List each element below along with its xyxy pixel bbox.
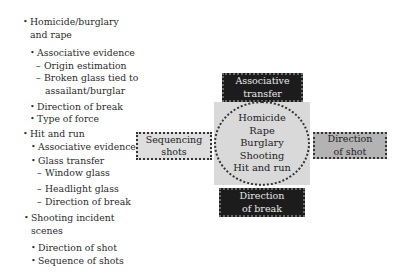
list-item-text: Headlight glass [45, 183, 119, 194]
associative-transfer-box: Associativetransfer [222, 73, 303, 102]
direction-of-shot-box: Directionof shot [313, 132, 387, 159]
list-item-text: scenes [31, 225, 63, 236]
list-item-associative-evidence-2: Associative evidence [38, 141, 136, 154]
list-item-text: Direction of break [45, 196, 131, 207]
list-item-origin-estimation: Origin estimation [44, 60, 127, 73]
crime-types-circle: Homicide Rape Burglary Shooting Hit and … [214, 101, 310, 186]
list-item-homicide: Homicide/burglaryand rape [30, 16, 119, 41]
crime-type-text: Shooting [240, 150, 284, 161]
box-text: Sequencing [146, 134, 203, 145]
list-item-text: assailant/burglar [44, 85, 125, 96]
box-text: of shot [334, 146, 367, 157]
list-item-sequence-of-shots: Sequence of shots [38, 255, 124, 268]
crime-type-text: Hit and run [233, 162, 291, 173]
list-item-text: Type of force [37, 113, 99, 124]
list-item-text: Associative evidence [37, 47, 135, 58]
list-item-text: Shooting incident [31, 212, 114, 223]
list-item-glass-transfer: Glass transfer [38, 155, 104, 168]
crime-type-text: Burglary [240, 137, 284, 148]
list-item-window-glass: Window glass [45, 167, 110, 180]
list-item-text: Sequence of shots [38, 255, 124, 266]
list-item-hit-and-run: Hit and run [30, 128, 85, 141]
list-item-shooting-incident: Shooting incidentscenes [31, 212, 114, 237]
list-item-type-of-force: Type of force [37, 113, 99, 126]
box-text: Associative [235, 75, 289, 86]
list-item-text: Associative evidence [38, 141, 136, 152]
crime-type-text: Rape [249, 125, 275, 136]
list-item-text: Broken glass tied to [44, 72, 138, 83]
list-item-direction-of-shot: Direction of shot [38, 242, 117, 255]
list-item-direction-of-break: Direction of break [37, 101, 123, 114]
list-item-text: and rape [30, 29, 72, 40]
list-item-text: Direction of shot [38, 242, 117, 253]
sequencing-shots-box: Sequencingshots [136, 132, 212, 160]
list-item-text: Homicide/burglary [30, 16, 119, 27]
box-text: Direction [240, 190, 285, 201]
list-item-text: Glass transfer [38, 155, 104, 166]
direction-of-break-box: Directionof break [219, 188, 305, 217]
box-text: transfer [243, 88, 282, 99]
crime-type-text: Homicide [238, 112, 286, 123]
list-item-broken-glass: Broken glass tied toassailant/burglar [44, 72, 138, 97]
list-item-associative-evidence: Associative evidence [37, 47, 135, 60]
list-item-text: Hit and run [30, 128, 85, 139]
list-item-text: Window glass [45, 167, 110, 178]
list-item-text: Direction of break [37, 101, 123, 112]
box-text: shots [161, 146, 186, 157]
box-text: Direction [328, 133, 373, 144]
list-item-text: Origin estimation [44, 60, 127, 71]
box-text: of break [242, 203, 282, 214]
list-item-direction-of-break-2: Direction of break [45, 196, 131, 209]
list-item-headlight-glass: Headlight glass [45, 183, 119, 196]
